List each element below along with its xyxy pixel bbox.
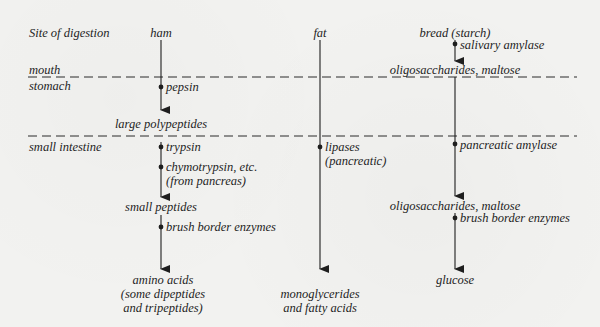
lipases-dot	[318, 145, 323, 150]
product-amino-acids-note-1: (some dipeptides	[121, 287, 205, 301]
product-glucose: glucose	[436, 273, 474, 287]
site-of-digestion-label: Site of digestion	[29, 26, 110, 40]
product-fatty-acids: and fatty acids	[283, 301, 357, 315]
ham-brush-border-dot	[159, 225, 164, 230]
enzyme-pancreatic-amylase-label: pancreatic amylase	[460, 138, 557, 152]
chymotrypsin-dot	[159, 165, 164, 170]
product-large-polypeptides: large polypeptides	[115, 117, 207, 131]
region-mouth-label: mouth	[29, 63, 60, 77]
region-small-intestine-label: small intestine	[29, 140, 102, 154]
product-small-peptides: small peptides	[125, 200, 197, 214]
food-fat-label: fat	[313, 26, 326, 40]
pancreatic-amylase-dot	[453, 142, 458, 147]
enzyme-chymotrypsin-source: (from pancreas)	[166, 174, 246, 188]
enzyme-salivary-amylase-label: salivary amylase	[460, 38, 544, 52]
product-amino-acids-note-2: and tripeptides)	[123, 301, 203, 315]
enzyme-ham-brush-border-label: brush border enzymes	[166, 220, 276, 234]
trypsin-dot	[159, 145, 164, 150]
enzyme-lipases-source: (pancreatic)	[325, 154, 386, 168]
enzyme-trypsin-label: trypsin	[166, 140, 201, 154]
product-amino-acids: amino acids	[133, 273, 194, 287]
bread-brush-border-dot	[453, 216, 458, 221]
enzyme-pepsin-label: pepsin	[166, 80, 199, 94]
salivary-amylase-dot	[453, 42, 458, 47]
pepsin-dot	[159, 85, 164, 90]
product-monoglycerides: monoglycerides	[280, 287, 359, 301]
enzyme-bread-brush-border-label: brush border enzymes	[460, 211, 570, 225]
region-stomach-label: stomach	[29, 79, 71, 93]
enzyme-chymotrypsin-label: chymotrypsin, etc.	[166, 160, 257, 174]
product-oligosaccharides-mouth: oligosaccharides, maltose	[390, 63, 521, 77]
enzyme-lipases-label: lipases	[325, 140, 360, 154]
food-ham-label: ham	[150, 26, 172, 40]
